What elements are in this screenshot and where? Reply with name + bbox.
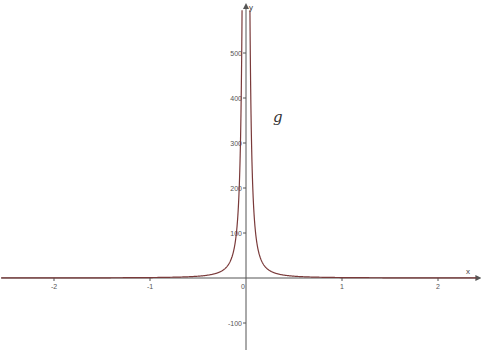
x-tick-label: -2 (51, 283, 57, 290)
x-tick-label: 0 (241, 283, 245, 290)
x-axis-label: x (466, 267, 470, 276)
y-tick-label: 500 (230, 50, 242, 57)
curve-g (250, 10, 476, 278)
x-tick-label: 2 (436, 283, 440, 290)
y-axis-label: y (249, 3, 253, 12)
y-tick-label: 200 (230, 185, 242, 192)
function-label-g: g (273, 108, 283, 126)
x-tick-label: 1 (340, 283, 344, 290)
curve-g (1, 10, 242, 278)
y-tick-label: -100 (228, 320, 242, 327)
function-plot: -2-1012-100100200300400500 x y g (0, 0, 491, 358)
axis-ticks: -2-1012-100100200300400500 (51, 50, 440, 327)
x-tick-label: -1 (147, 283, 153, 290)
y-tick-label: 400 (230, 95, 242, 102)
